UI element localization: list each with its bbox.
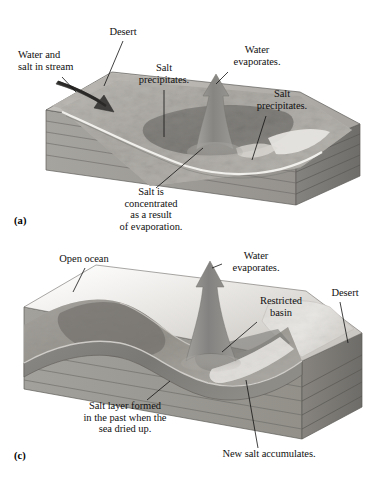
panel-key: (a) <box>14 215 27 226</box>
label-line: evaporates. <box>218 262 294 274</box>
label-line: precipitates. <box>128 74 200 86</box>
label-line: Salt <box>244 88 320 100</box>
label-line: precipitates. <box>244 100 320 112</box>
label-line: Salt is <box>102 186 200 198</box>
label-line: basin <box>245 307 317 319</box>
label-open-ocean: Open ocean <box>46 253 122 265</box>
label-salt-layer-formed: Salt layer formedin the past when thesea… <box>62 400 188 435</box>
panel-a: DesertWater andsalt in streamSaltprecipi… <box>0 0 385 241</box>
label-line: concentrated <box>102 198 200 210</box>
evaporite-figure: DesertWater andsalt in streamSaltprecipi… <box>0 0 385 482</box>
label-salt-is-concentrated: Salt isconcentratedas a resultof evapora… <box>102 186 200 232</box>
label-line: Water <box>219 44 295 56</box>
evaporation-arrow-base <box>187 142 243 162</box>
label-line: New salt accumulates. <box>204 448 334 460</box>
label-restricted-basin: Restrictedbasin <box>245 295 317 318</box>
label-desert: Desert <box>318 287 372 299</box>
label-salt-precipitates-right: Saltprecipitates. <box>244 88 320 111</box>
label-water-evaporates: Waterevaporates. <box>218 250 294 273</box>
label-desert: Desert <box>93 26 153 38</box>
label-line: as a result <box>102 209 200 221</box>
label-line: Desert <box>318 287 372 299</box>
label-line: Restricted <box>245 295 317 307</box>
label-new-salt-accumulates: New salt accumulates. <box>204 448 334 460</box>
panel-c: Open oceanWaterevaporates.Restrictedbasi… <box>0 241 385 482</box>
label-line: salt in stream <box>18 61 98 73</box>
label-line: Salt <box>128 62 200 74</box>
label-line: in the past when the <box>62 412 188 424</box>
label-line: of evaporation. <box>102 221 200 233</box>
label-line: Salt layer formed <box>62 400 188 412</box>
panel-key: (c) <box>14 450 26 461</box>
evaporation-arrow-base <box>181 354 241 372</box>
label-line: Water and <box>18 49 98 61</box>
label-salt-precipitates-left: Saltprecipitates. <box>128 62 200 85</box>
label-line: Water <box>218 250 294 262</box>
label-line: sea dried up. <box>62 423 188 435</box>
label-line: Open ocean <box>46 253 122 265</box>
label-water-and-salt-in-stream: Water andsalt in stream <box>18 49 98 72</box>
label-water-evaporates: Waterevaporates. <box>219 44 295 67</box>
label-line: Desert <box>93 26 153 38</box>
label-line: evaporates. <box>219 56 295 68</box>
panel-c-block-diagram <box>0 241 385 482</box>
